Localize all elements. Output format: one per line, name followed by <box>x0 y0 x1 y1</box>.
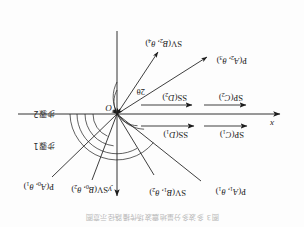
wave-label-ss-d1: SS(D1) <box>163 130 188 139</box>
ray-label-p-a1: P(A1, θ1) <box>216 187 247 196</box>
y-axis-label: y <box>108 185 112 194</box>
ray-label-p-a2: P(A2, θ3) <box>217 56 248 65</box>
ray-label-p-a0: P(A0, θ1) <box>24 182 55 191</box>
ray-label-sv-b2: SV(B2, θ4) <box>145 39 182 48</box>
ray-label-sv-b0: SV(B0, θ2) <box>71 185 108 194</box>
region-step-2-label: 步骤2 <box>33 109 55 117</box>
x-axis-label: x <box>270 119 274 128</box>
ray-p-a2 <box>117 57 207 114</box>
wave-label-sp-c1: SP(C1) <box>220 130 244 139</box>
angle-arc-lower-1 <box>114 90 138 126</box>
angle-arc-3 <box>77 114 137 154</box>
ray-sv-b0 <box>92 114 117 180</box>
ray-p-a0 <box>52 114 117 177</box>
figure-page: 图3 多波多分量地震波场传播路径示意图 <box>0 0 304 227</box>
wave-label-ss-d2: SS(D2) <box>162 93 187 102</box>
region-step-1-label: 步骤1 <box>33 141 55 149</box>
ray-sv-b1 <box>117 114 154 175</box>
wave-label-sp-c2: SP(C2) <box>219 93 243 102</box>
angle-2theta-label: 2θ <box>137 87 145 96</box>
origin-label: O <box>106 103 113 112</box>
ray-group-upper <box>52 114 201 181</box>
ray-label-sv-b1: SV(B1, θ2) <box>149 188 186 197</box>
ray-p-a1 <box>117 114 201 181</box>
